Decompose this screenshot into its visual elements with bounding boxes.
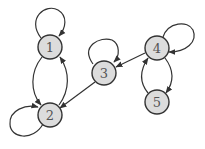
edge-4-to-3	[116, 53, 145, 67]
edge-3-to-3	[89, 39, 119, 64]
node-2: 2	[38, 103, 62, 127]
node-5: 5	[145, 90, 169, 114]
node-5-label: 5	[153, 95, 161, 110]
node-4-label: 4	[153, 41, 161, 56]
edge-3-to-2	[60, 82, 95, 108]
edge-1-to-1	[36, 8, 65, 38]
edge-2-to-1	[59, 57, 67, 105]
node-1-label: 1	[46, 40, 54, 55]
node-3: 3	[92, 61, 116, 85]
node-2-label: 2	[46, 108, 54, 123]
edge-4-to-5	[165, 58, 172, 93]
edge-5-to-4	[142, 58, 148, 93]
node-1: 1	[38, 35, 62, 59]
edge-1-to-2	[33, 57, 42, 105]
directed-graph: 1 2 3 4 5	[0, 0, 205, 149]
node-4: 4	[145, 36, 169, 60]
node-3-label: 3	[100, 66, 108, 81]
edge-2-to-2	[10, 106, 43, 136]
